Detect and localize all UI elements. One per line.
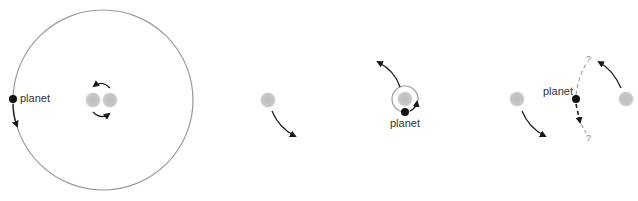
question-mark-top: ? [586,54,591,64]
planet-label-panel3: planet [390,117,420,129]
planet-dot [9,95,17,103]
planet-arrow-icon [576,104,580,122]
motion-arrow-icon [378,62,400,87]
motion-arrow-icon [272,111,295,136]
panel-single-star [261,93,296,137]
panel-s-type [378,62,418,116]
star-right [619,92,634,107]
uncertain-path-lower [576,104,586,133]
planet-label-panel4: planet [543,85,573,97]
planet-dot [572,95,580,103]
star [261,93,276,108]
star-left [86,93,101,108]
right-star-arrow-icon [599,62,621,88]
left-star-arrow-icon [522,111,545,136]
planet-label-panel1: planet [20,92,50,104]
star-left [510,92,525,107]
orbit-direction-arrow-icon [13,104,17,126]
star [398,92,413,107]
rotation-arrow-top-icon [94,83,110,88]
diagram-canvas [0,0,638,201]
uncertain-path-upper [576,64,586,95]
planet-dot [401,108,409,116]
question-mark-bottom: ? [586,133,591,143]
rotation-arrow-bottom-icon [93,112,109,117]
panel-between-stars [510,62,634,136]
star-right [103,93,118,108]
